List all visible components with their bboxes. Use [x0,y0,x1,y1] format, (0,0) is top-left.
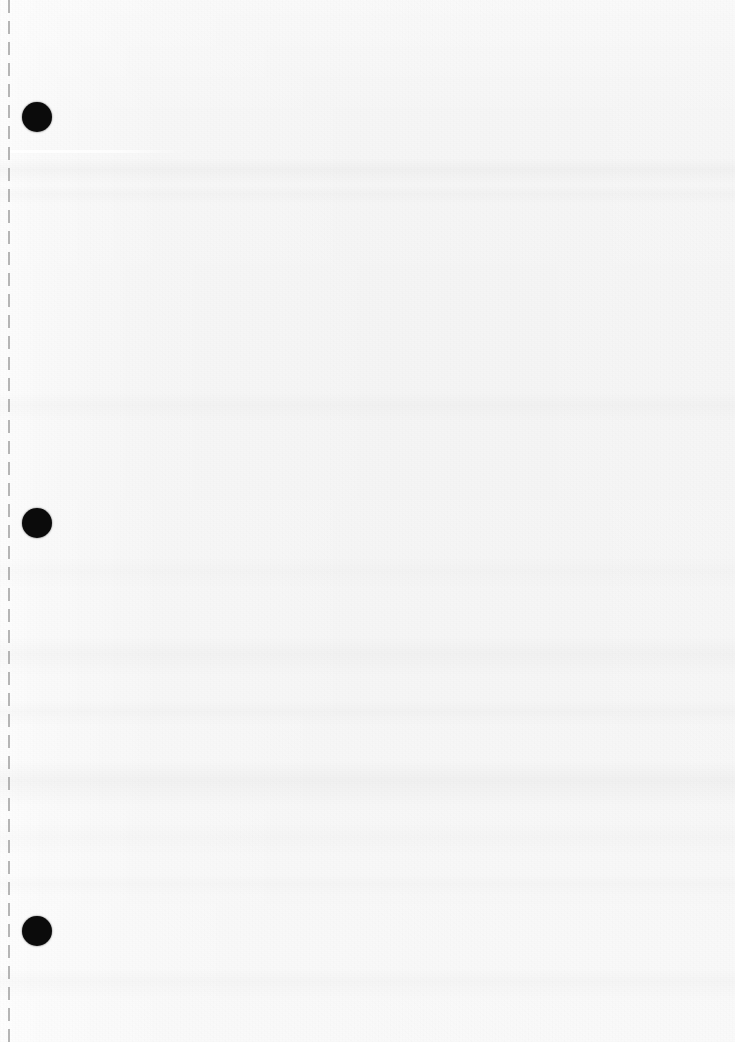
page-content-area [95,70,680,972]
hole-punch-bottom [22,916,52,946]
scan-band [0,968,735,998]
scanned-page [0,0,735,1042]
hole-punch-top [22,102,52,132]
hole-punch-middle [22,508,52,538]
perforation-dashed-line [8,0,10,1042]
